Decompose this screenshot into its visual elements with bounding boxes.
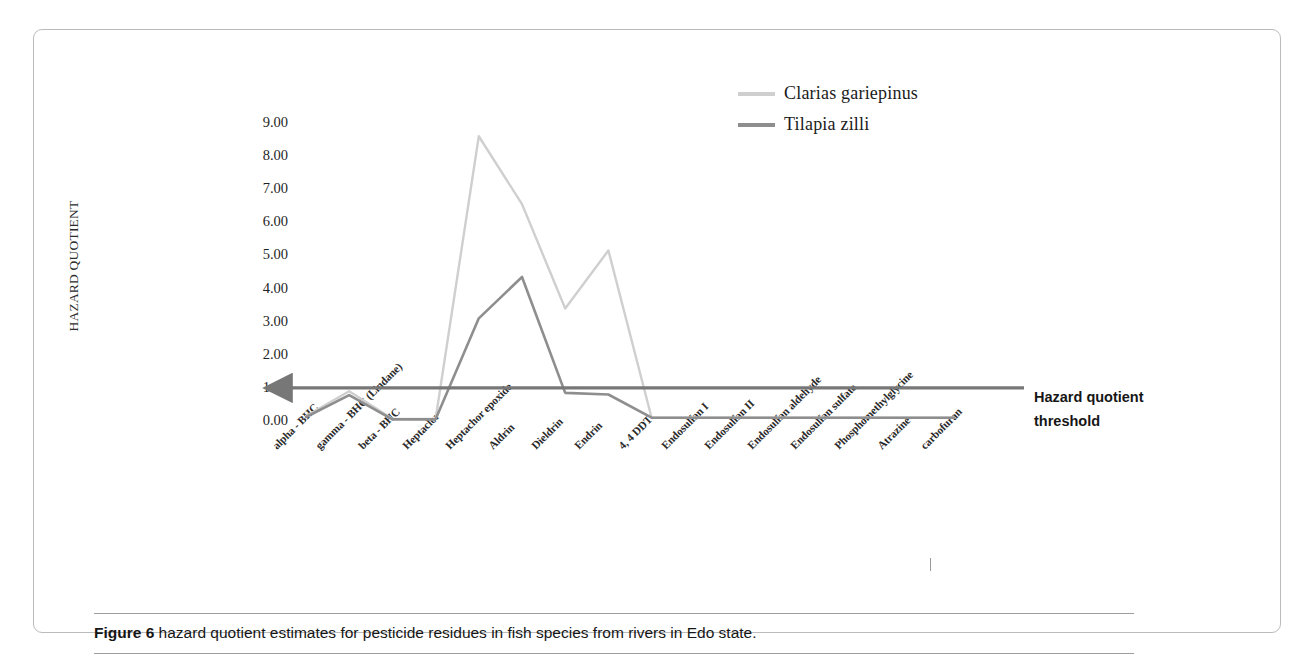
series-lines [306, 136, 954, 419]
legend-label: Clarias gariepinus [784, 83, 918, 104]
figure-root: HAZARD QUOTIENT 0.001.002.003.004.005.00… [0, 0, 1314, 662]
figure-frame: HAZARD QUOTIENT 0.001.002.003.004.005.00… [33, 29, 1281, 633]
caption-rule-bottom [94, 653, 1134, 654]
threshold-annotation: Hazard quotient threshold [1034, 385, 1249, 433]
legend-item: Clarias gariepinus [738, 78, 1038, 109]
legend-swatch-icon [738, 123, 775, 127]
scan-artifact-tick [930, 558, 931, 571]
figure-caption: Figure 6 hazard quotient estimates for p… [94, 622, 1214, 644]
figure-caption-label: Figure 6 [94, 624, 154, 641]
threshold-annotation-line2: threshold [1034, 409, 1249, 433]
threshold-annotation-line1: Hazard quotient [1034, 385, 1249, 409]
chart-plot-area: HAZARD QUOTIENT 0.001.002.003.004.005.00… [34, 30, 1282, 634]
figure-caption-text: hazard quotient estimates for pesticide … [154, 624, 756, 641]
series-line-clarias-gariepinus [306, 136, 954, 419]
legend-item: Tilapia zilli [738, 109, 1038, 140]
chart-legend: Clarias gariepinusTilapia zilli [738, 78, 1038, 140]
series-line-tilapia-zilli [306, 277, 954, 419]
caption-rule-top [94, 613, 1134, 614]
legend-label: Tilapia zilli [784, 114, 869, 135]
legend-swatch-icon [738, 92, 775, 96]
chart-series-svg [34, 30, 1282, 634]
